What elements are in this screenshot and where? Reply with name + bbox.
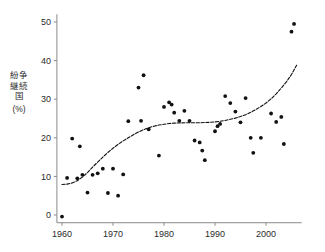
data-point — [274, 120, 278, 124]
data-point — [223, 94, 227, 98]
data-point — [259, 136, 263, 140]
data-point — [116, 194, 120, 198]
data-point — [142, 73, 146, 77]
data-point — [106, 191, 110, 195]
trend-curve — [62, 65, 297, 184]
plot-area: 01020304050 19601970198019902000 — [0, 0, 325, 252]
data-point — [198, 141, 202, 145]
data-point — [81, 173, 85, 177]
data-point — [78, 144, 82, 148]
data-point — [111, 167, 115, 171]
data-point — [193, 139, 197, 143]
data-point — [279, 115, 283, 119]
data-point — [121, 173, 125, 177]
data-point — [60, 215, 64, 219]
data-point — [249, 136, 253, 140]
data-point — [137, 86, 141, 90]
data-point — [200, 149, 204, 153]
data-point — [177, 119, 181, 123]
y-tick-label: 0 — [46, 210, 51, 220]
x-axis: 19601970198019902000 — [52, 223, 302, 239]
y-tick-label: 30 — [41, 94, 51, 104]
data-point — [290, 30, 294, 34]
data-point — [157, 154, 161, 158]
data-point — [139, 119, 143, 123]
y-tick-label: 40 — [41, 56, 51, 66]
data-point — [172, 111, 176, 115]
data-point — [218, 122, 222, 126]
x-tick-label: 1980 — [154, 229, 174, 239]
data-point — [213, 129, 217, 133]
data-point — [65, 176, 69, 180]
y-axis-ticks: 01020304050 — [41, 17, 57, 220]
data-point — [162, 105, 166, 109]
data-point — [183, 109, 187, 113]
x-tick-label: 1990 — [205, 229, 225, 239]
data-point — [126, 119, 130, 123]
data-point — [91, 173, 95, 177]
data-point — [269, 112, 273, 116]
trend-curve-group — [62, 65, 297, 184]
data-point — [234, 110, 238, 114]
data-point — [75, 176, 79, 180]
data-points-group — [60, 22, 296, 218]
y-tick-label: 50 — [41, 17, 51, 27]
data-point — [147, 127, 151, 131]
y-tick-label: 20 — [41, 133, 51, 143]
y-axis: 01020304050 — [41, 14, 57, 222]
x-tick-label: 2000 — [256, 229, 276, 239]
x-axis-ticks: 19601970198019902000 — [52, 223, 276, 239]
data-point — [282, 142, 286, 146]
x-tick-label: 1970 — [103, 229, 123, 239]
data-point — [188, 119, 192, 123]
x-tick-label: 1960 — [52, 229, 72, 239]
data-point — [70, 137, 74, 141]
data-point — [203, 158, 207, 162]
data-point — [292, 22, 296, 26]
y-tick-label: 10 — [41, 172, 51, 182]
data-point — [239, 120, 243, 124]
data-point — [96, 171, 100, 175]
data-point — [244, 96, 248, 100]
data-point — [228, 101, 232, 105]
data-point — [101, 167, 105, 171]
data-point — [170, 103, 174, 107]
data-point — [86, 191, 90, 195]
scatter-chart: 紛争継続国 (%) 01020304050 196019701980199020… — [0, 0, 325, 252]
data-point — [251, 151, 255, 155]
